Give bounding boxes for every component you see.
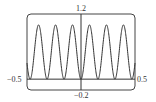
- y-min-label: −0.2: [74, 92, 89, 100]
- function-plot: [0, 0, 156, 102]
- y-max-label: 1.2: [76, 5, 86, 13]
- x-min-label: −0.5: [7, 76, 22, 84]
- x-max-label: 0.5: [137, 76, 147, 84]
